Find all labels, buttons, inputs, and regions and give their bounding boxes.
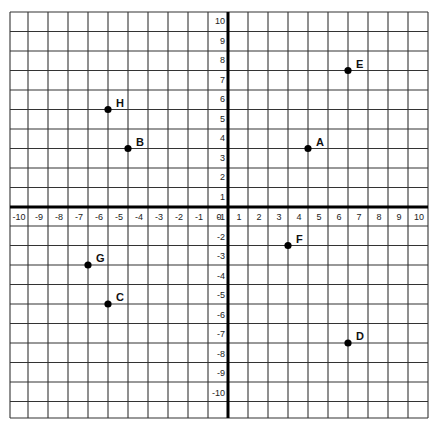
point-marker	[344, 67, 351, 74]
point-e: E	[344, 58, 363, 75]
y-tick-label: -2	[217, 232, 225, 242]
point-marker	[124, 145, 131, 152]
y-tick-label: 8	[220, 55, 225, 65]
coordinate-plane: -10-9-8-7-6-5-4-3-2-1012345678910 109876…	[0, 0, 440, 430]
y-tick-label: -1	[217, 212, 225, 222]
point-label: F	[296, 233, 303, 245]
point-g: G	[84, 252, 104, 269]
y-tick-label: 3	[220, 153, 225, 163]
y-tick-label: 5	[220, 114, 225, 124]
point-c: C	[104, 291, 124, 308]
y-tick-label: -5	[217, 290, 225, 300]
point-label: D	[356, 330, 364, 342]
y-tick-label: -4	[217, 271, 225, 281]
y-tick-label: -7	[217, 329, 225, 339]
x-tick-label: -9	[35, 212, 43, 222]
y-tick-label: 9	[220, 36, 225, 46]
y-tick-label: 7	[220, 75, 225, 85]
x-tick-label: -6	[95, 212, 103, 222]
x-tick-label: -1	[195, 212, 203, 222]
y-tick-label: 2	[220, 172, 225, 182]
x-tick-label: 2	[256, 212, 261, 222]
point-marker	[84, 261, 91, 268]
point-label: H	[116, 97, 124, 109]
y-tick-label: 10	[215, 16, 225, 26]
x-tick-label: -10	[12, 212, 25, 222]
point-marker	[104, 300, 111, 307]
point-marker	[284, 242, 291, 249]
point-marker	[304, 145, 311, 152]
point-a: A	[304, 136, 324, 153]
point-h: H	[104, 97, 124, 114]
x-tick-label: 1	[236, 212, 241, 222]
point-label: G	[96, 252, 105, 264]
y-tick-label: -6	[217, 310, 225, 320]
x-tick-label: 8	[376, 212, 381, 222]
x-tick-label: 3	[276, 212, 281, 222]
x-tick-label: 6	[336, 212, 341, 222]
point-label: B	[136, 136, 144, 148]
y-tick-label: -3	[217, 251, 225, 261]
point-label: C	[116, 291, 124, 303]
point-marker	[344, 339, 351, 346]
x-tick-label: 9	[396, 212, 401, 222]
y-tick-label: 6	[220, 94, 225, 104]
y-tick-label: -8	[217, 349, 225, 359]
y-tick-label: -10	[212, 388, 225, 398]
point-label: E	[356, 58, 363, 70]
x-tick-label: -3	[155, 212, 163, 222]
point-marker	[104, 106, 111, 113]
point-f: F	[284, 233, 303, 250]
x-tick-label: -7	[75, 212, 83, 222]
point-label: A	[316, 136, 324, 148]
x-tick-label: -2	[175, 212, 183, 222]
y-tick-label: 4	[220, 133, 225, 143]
x-tick-label: -5	[115, 212, 123, 222]
point-b: B	[124, 136, 144, 153]
x-tick-label: 5	[316, 212, 321, 222]
x-tick-label: 7	[356, 212, 361, 222]
x-tick-label: 4	[296, 212, 301, 222]
x-tick-label: -8	[55, 212, 63, 222]
y-tick-label: 1	[220, 192, 225, 202]
x-tick-label: -4	[135, 212, 143, 222]
x-tick-label: 10	[414, 212, 424, 222]
point-d: D	[344, 330, 364, 347]
y-tick-label: -9	[217, 368, 225, 378]
